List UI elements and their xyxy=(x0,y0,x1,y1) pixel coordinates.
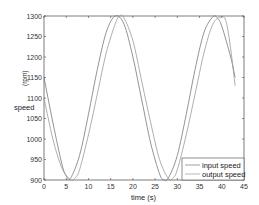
y-tick-label: 1250 xyxy=(26,33,42,40)
x-axis-label: time (s) xyxy=(131,193,157,202)
y-axis-unit: (rpm) xyxy=(21,70,29,86)
plot-area xyxy=(44,16,244,180)
y-tick-label: 1150 xyxy=(27,74,42,81)
y-axis-label: speed xyxy=(14,103,34,112)
y-tick-label: 1050 xyxy=(26,115,42,122)
x-tick-label: 45 xyxy=(240,183,248,190)
x-tick-label: 5 xyxy=(64,183,68,190)
y-tick-label: 900 xyxy=(30,177,42,184)
x-tick-label: 25 xyxy=(151,183,159,190)
x-tick-label: 30 xyxy=(173,183,181,190)
axes-frame xyxy=(44,16,244,180)
x-tick-label: 40 xyxy=(218,183,226,190)
legend-label-output: output speed xyxy=(202,170,245,179)
y-tick-label: 1100 xyxy=(27,95,42,102)
legend-label-input: input speed xyxy=(202,161,241,170)
speed-chart: 0510152025303540459009501000105011001150… xyxy=(0,0,259,205)
y-tick-label: 1200 xyxy=(26,54,42,61)
x-tick-label: 35 xyxy=(196,183,204,190)
x-tick-label: 0 xyxy=(42,183,46,190)
x-tick-label: 20 xyxy=(129,183,137,190)
legend: input speed output speed xyxy=(182,158,245,180)
x-tick-label: 10 xyxy=(85,183,93,190)
y-tick-label: 1300 xyxy=(26,13,42,20)
y-tick-label: 1000 xyxy=(26,136,42,143)
x-tick-label: 15 xyxy=(107,183,115,190)
y-tick-label: 950 xyxy=(30,156,42,163)
